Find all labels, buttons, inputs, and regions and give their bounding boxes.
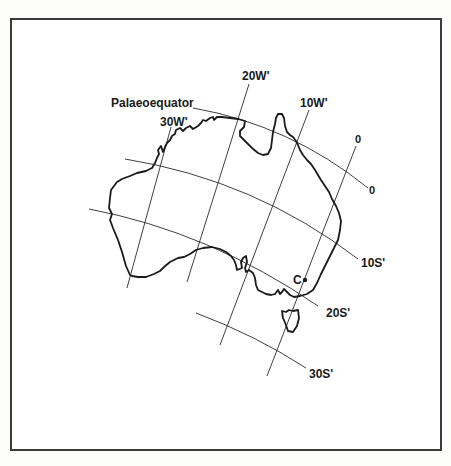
parallel-10s-line — [125, 159, 358, 259]
meridian-30w-label: 30W' — [160, 115, 188, 129]
meridian-0-line — [267, 146, 356, 376]
tasmania-outline — [282, 310, 299, 332]
meridian-0-label: 0 — [355, 133, 361, 145]
meridian-20w-label: 20W' — [242, 69, 270, 83]
australia-mainland-outline — [109, 114, 341, 297]
parallel-20s-label: 20S' — [326, 306, 350, 320]
palaeo-grid-map: Palaeoequator 30W' 20W' 10W' 0 0 10S' 20… — [0, 0, 451, 466]
meridian-20w-line — [187, 84, 249, 282]
site-c-marker — [303, 278, 307, 282]
meridian-10w-label: 10W' — [300, 96, 328, 110]
parallel-30s-label: 30S' — [309, 367, 333, 381]
parallel-10s-label: 10S' — [361, 256, 385, 270]
meridian-30w-line — [127, 127, 171, 288]
parallel-30s-line — [196, 313, 306, 368]
site-c-label: C — [293, 273, 302, 287]
palaeoequator-label: Palaeoequator — [111, 96, 194, 110]
parallel-0-label: 0 — [369, 184, 375, 196]
palaeoequator-line — [193, 108, 368, 188]
